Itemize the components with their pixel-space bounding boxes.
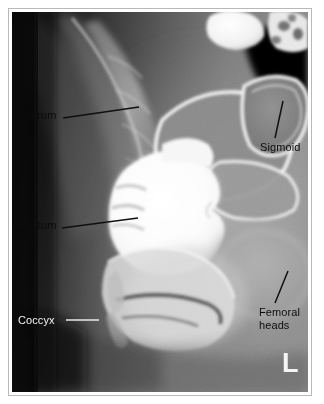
annotation-label-femoral-heads: Femoralheads [259, 306, 300, 331]
leader-line-femoral-heads [275, 271, 288, 303]
annotation-label-sigmoid: Sigmoid [260, 141, 300, 154]
annotation-label-coccyx: Coccyx [18, 314, 55, 327]
annotation-label-femoral-heads-line1: Femoral [259, 306, 300, 318]
leader-line-rectum [62, 218, 138, 228]
leader-line-sigmoid [275, 101, 283, 138]
annotation-label-sacrum: Sacrum [18, 109, 57, 122]
annotation-label-rectum: Rectum [18, 219, 57, 232]
leader-line-sacrum [63, 107, 139, 118]
figure-radiograph-annotated: Sacrum Rectum Coccyx Sigmoid Femoralhead… [0, 0, 324, 404]
annotation-leader-lines [0, 0, 324, 404]
annotation-label-femoral-heads-line2: heads [259, 319, 289, 331]
